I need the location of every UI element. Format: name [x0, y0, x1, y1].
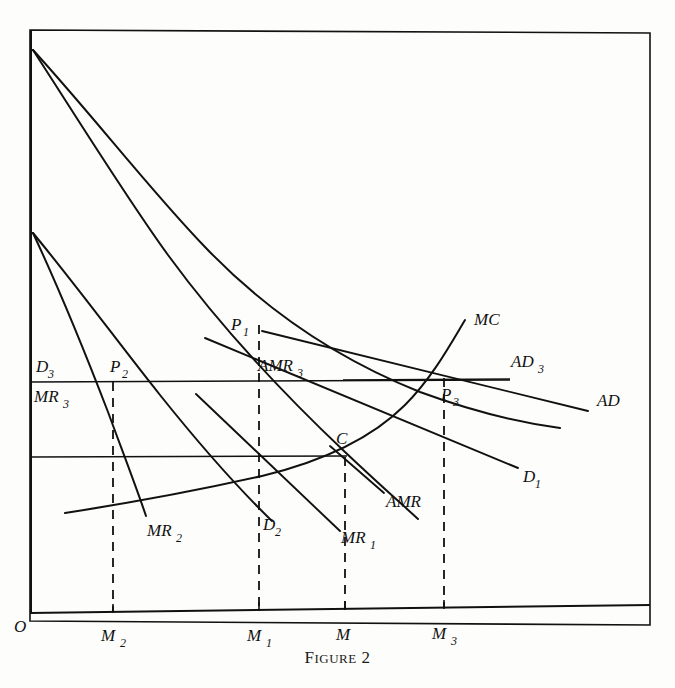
svg-text:MR: MR	[146, 521, 172, 540]
svg-text:2: 2	[176, 531, 182, 545]
svg-text:AMR: AMR	[257, 356, 294, 375]
svg-text:1: 1	[243, 325, 249, 339]
curve-amr-steep-demand	[33, 50, 418, 519]
curve-ad3-share-demand	[343, 379, 510, 380]
svg-text:3: 3	[450, 634, 457, 648]
curve-label-d3: D 3	[35, 357, 54, 381]
svg-text:1: 1	[370, 538, 376, 552]
svg-text:M: M	[100, 626, 116, 645]
curve-label-p3: P 3	[440, 385, 459, 409]
x-tick-label-m2: M 2	[100, 626, 126, 650]
svg-text:3: 3	[452, 395, 459, 409]
svg-text:3: 3	[296, 366, 303, 380]
price-line-p2	[31, 380, 510, 382]
caption-number: 2	[361, 648, 370, 667]
curve-label-d2: D 2	[262, 515, 281, 539]
x-tick-label-m1: M 1	[246, 626, 272, 650]
curve-label-amr: AMR	[385, 492, 422, 511]
x-tick-label-m3: M 3	[431, 624, 457, 648]
svg-text:2: 2	[275, 525, 281, 539]
caption-prefix: F	[305, 648, 315, 667]
svg-text:AD: AD	[596, 391, 620, 410]
curve-label-mr2: MR 2	[146, 521, 182, 545]
svg-text:AMR: AMR	[385, 492, 422, 511]
figure-caption: FIGURE 2	[0, 648, 675, 668]
axis-origin-label: O	[14, 617, 26, 636]
svg-text:MR: MR	[33, 387, 59, 406]
svg-text:M: M	[335, 625, 351, 644]
svg-text:3: 3	[62, 397, 69, 411]
svg-text:M: M	[246, 626, 262, 645]
svg-text:M: M	[431, 624, 447, 643]
curve-label-mc: MC	[473, 310, 500, 329]
svg-text:MR: MR	[340, 528, 366, 547]
curve-label-mr1: MR 1	[340, 528, 376, 552]
svg-text:D: D	[35, 357, 49, 376]
figure-container: O M 2 M 1 M M 3 D 3 MR 3 P 2	[0, 0, 675, 688]
x-tick-label-m: M	[335, 625, 351, 644]
svg-text:C: C	[336, 429, 348, 448]
svg-text:D: D	[262, 515, 276, 534]
svg-text:P: P	[109, 357, 120, 376]
curve-amr-segment	[330, 446, 384, 493]
curve-label-ad: AD	[596, 391, 620, 410]
price-line-c	[31, 456, 347, 457]
svg-text:MC: MC	[473, 310, 500, 329]
curve-label-p2: P 2	[109, 357, 128, 381]
caption-rest: IGURE	[315, 651, 357, 666]
economics-figure-svg: O M 2 M 1 M M 3 D 3 MR 3 P 2	[0, 0, 675, 688]
curve-label-c: C	[336, 429, 348, 448]
svg-text:P: P	[440, 385, 451, 404]
svg-text:3: 3	[47, 367, 54, 381]
x-axis	[30, 605, 650, 613]
curve-label-amr3: AMR 3	[257, 356, 303, 380]
curve-label-d1: D 1	[522, 467, 541, 491]
curve-label-ad3: AD 3	[510, 352, 544, 376]
svg-text:P: P	[230, 315, 241, 334]
svg-text:D: D	[522, 467, 536, 486]
svg-text:3: 3	[537, 362, 544, 376]
svg-text:1: 1	[535, 477, 541, 491]
svg-text:2: 2	[122, 367, 128, 381]
curve-label-mr3: MR 3	[33, 387, 69, 411]
svg-text:AD: AD	[510, 352, 534, 371]
figure-frame	[30, 30, 650, 625]
